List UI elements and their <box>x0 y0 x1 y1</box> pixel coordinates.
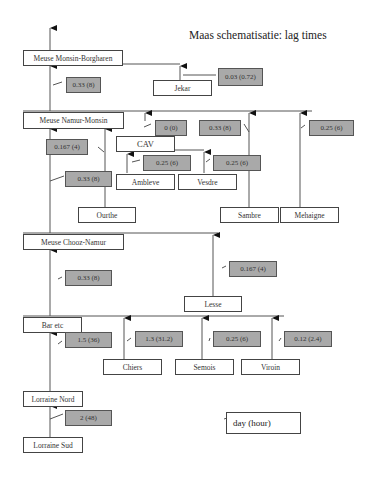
node-sambre: Sambre <box>220 207 279 223</box>
lag-value: 0.33 (8) <box>77 274 99 282</box>
lag-vesdre: 0.25 (6) <box>213 155 261 171</box>
lag-value: 0.33 (8) <box>209 124 231 132</box>
node-cav: CAV <box>116 136 175 152</box>
diagram-title: Maas schematisatie: lag times <box>189 29 327 41</box>
node-lorraine-sud: Lorraine Sud <box>23 437 83 453</box>
lag-viroin: 0.12 (2.4) <box>284 331 332 347</box>
node-label: Sambre <box>238 211 261 220</box>
lag-ourthe: 0.33 (8) <box>65 171 112 187</box>
node-label: Meuse Namur-Monsin <box>40 116 108 125</box>
node-label: CAV <box>137 139 154 149</box>
lag-value: 0.33 (8) <box>72 81 94 89</box>
lag-jekar: 0.03 (0.72) <box>218 68 263 86</box>
lag-semois: 0.25 (6) <box>213 331 261 347</box>
node-lorraine-nord: Lorraine Nord <box>23 391 83 407</box>
lag-mehaigne: 0.25 (6) <box>309 120 354 136</box>
node-mehaigne: Mehaigne <box>280 207 339 223</box>
lag-namur-to-monsin-borgharen: 0.33 (8) <box>66 77 101 93</box>
lag-lesse: 0.167 (4) <box>229 261 277 277</box>
node-meuse-chooz-namur: Meuse Chooz-Namur <box>23 234 124 250</box>
node-ourthe: Ourthe <box>78 207 136 223</box>
node-label: Meuse Chooz-Namur <box>41 238 106 247</box>
node-label: Vesdre <box>197 178 217 187</box>
node-semois: Semois <box>175 359 234 375</box>
lag-value: 0.25 (6) <box>226 159 248 167</box>
lag-lorraine-nord-to-bar: 1.5 (36) <box>65 332 112 348</box>
node-ambleve: Ambleve <box>116 174 175 190</box>
node-label: Lorraine Sud <box>33 441 72 450</box>
node-label: Chiers <box>123 363 143 372</box>
lag-value: 0.33 (8) <box>77 175 99 183</box>
legend-label: day (hour) <box>233 418 271 428</box>
node-vesdre: Vesdre <box>178 174 237 190</box>
node-label: Ambleve <box>132 178 160 187</box>
lag-value: 0 (0) <box>164 124 177 132</box>
lag-value: 1.5 (36) <box>77 336 99 344</box>
node-meuse-monsin-borgharen: Meuse Monsin-Borgharen <box>23 50 123 66</box>
node-label: Meuse Monsin-Borgharen <box>34 54 113 63</box>
lag-ambleve: 0.25 (6) <box>143 155 191 171</box>
node-label: Bar etc <box>42 321 63 330</box>
node-label: Jekar <box>175 84 191 93</box>
lag-value: 0.12 (2.4) <box>294 335 321 343</box>
lag-cav: 0 (0) <box>155 120 187 136</box>
lag-value: 0.167 (4) <box>240 265 266 273</box>
node-viroin: Viroin <box>241 359 300 375</box>
lag-value: 0.25 (6) <box>226 335 248 343</box>
lag-value: 0.25 (6) <box>156 159 178 167</box>
lag-sambre: 0.33 (8) <box>199 120 241 136</box>
node-jekar: Jekar <box>153 80 212 96</box>
node-chiers: Chiers <box>103 359 162 375</box>
node-label: Lorraine Nord <box>31 395 74 404</box>
legend-units: day (hour) <box>226 412 301 434</box>
diagram-canvas: Maas schematisatie: lag times Meuse Mons… <box>0 0 372 478</box>
lag-value: 2 (48) <box>80 414 97 422</box>
node-lesse: Lesse <box>184 296 242 312</box>
node-label: Mehaigne <box>295 211 325 220</box>
node-label: Ourthe <box>97 211 118 220</box>
node-bar-etc: Bar etc <box>23 317 82 333</box>
lag-value: 1.3 (31.2) <box>145 335 172 343</box>
lag-value: 0.167 (4) <box>54 143 80 151</box>
lag-bar-to-chooz: 0.33 (8) <box>65 270 112 286</box>
lag-value: 0.03 (0.72) <box>225 73 256 81</box>
lag-chooz-to-namur-monsin: 0.167 (4) <box>46 139 88 155</box>
node-label: Semois <box>193 363 215 372</box>
node-meuse-namur-monsin: Meuse Namur-Monsin <box>23 112 124 129</box>
lag-chiers: 1.3 (31.2) <box>135 331 183 347</box>
node-label: Lesse <box>204 300 221 309</box>
node-label: Viroin <box>261 363 280 372</box>
lag-lorraine-sud-to-nord: 2 (48) <box>65 410 112 426</box>
lag-value: 0.25 (6) <box>320 124 342 132</box>
